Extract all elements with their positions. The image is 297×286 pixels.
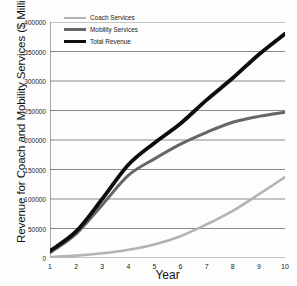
chart-legend: Coach ServicesMobility ServicesTotal Rev… bbox=[64, 14, 138, 45]
y-tick-label: 400000 bbox=[24, 19, 50, 26]
series-line-2 bbox=[50, 34, 285, 251]
y-tick-label: 100000 bbox=[24, 196, 50, 203]
legend-item-2: Total Revenue bbox=[64, 38, 138, 45]
y-tick-label: 250000 bbox=[24, 107, 50, 114]
legend-label: Total Revenue bbox=[90, 38, 131, 45]
x-axis-title: Year bbox=[50, 268, 285, 282]
chart-figure: Revenue for Coach and Mobility Services … bbox=[0, 0, 297, 286]
y-tick-label: 50000 bbox=[28, 225, 50, 232]
legend-swatch-icon bbox=[64, 40, 86, 43]
y-axis-title: Revenue for Coach and Mobility Services … bbox=[15, 0, 27, 243]
chart-canvas bbox=[50, 22, 285, 258]
y-tick-label: 200000 bbox=[24, 137, 50, 144]
legend-item-1: Mobility Services bbox=[64, 26, 138, 33]
y-tick-label: 150000 bbox=[24, 166, 50, 173]
y-tick-label: 350000 bbox=[24, 48, 50, 55]
legend-label: Mobility Services bbox=[90, 26, 138, 33]
legend-label: Coach Services bbox=[90, 14, 135, 21]
series-lines bbox=[50, 34, 285, 257]
y-tick-label: 300000 bbox=[24, 78, 50, 85]
series-line-0 bbox=[50, 177, 285, 257]
legend-swatch-icon bbox=[64, 28, 86, 30]
legend-swatch-icon bbox=[64, 17, 86, 19]
plot-area: 0500001000001500002000002500003000003500… bbox=[50, 22, 285, 258]
legend-item-0: Coach Services bbox=[64, 14, 138, 21]
